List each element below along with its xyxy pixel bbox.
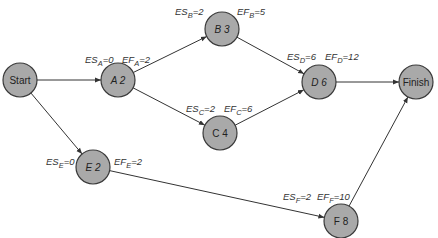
node-f: F 8 [324,204,358,238]
annotation-ef-d: EFD=12 [325,51,359,65]
annotation-prefix: ES [175,6,188,17]
annotation-value: =2 [300,191,312,202]
node-label-e: E 2 [85,162,100,173]
node-d: D 6 [302,65,336,99]
node-label-finish: Finish [403,77,430,88]
annotation-value: =10 [334,191,351,202]
node-finish: Finish [399,65,433,99]
annotation-value: =12 [343,51,360,62]
annotation-value: =5 [254,6,266,17]
annotation-value: =6 [305,51,317,62]
node-a: A 2 [101,63,135,97]
node-label-b: B 3 [214,24,229,35]
annotation-value: =2 [193,6,205,17]
annotation-value: =0 [103,54,115,65]
annotation-value: =2 [139,54,151,65]
annotation-es-e: ESE=0 [46,156,75,170]
node-label-a: A 2 [110,75,126,86]
node-b: B 3 [205,12,239,46]
node-label-d: D 6 [311,77,327,88]
annotation-value: =2 [131,156,143,167]
annotation-es-b: ESB=2 [175,6,204,20]
annotation-es-f: ESF=2 [283,191,312,205]
annotation-value: =0 [64,156,76,167]
node-label-c: C 4 [212,128,228,139]
annotation-es-c: ESC=2 [186,103,216,117]
annotation-prefix: ES [85,54,98,65]
annotation-ef-c: EFC=6 [224,103,253,117]
annotation-ef-e: EFE=2 [114,156,143,170]
edge-start-to-e [31,93,82,154]
annotation-prefix: ES [46,156,59,167]
node-start: Start [3,63,37,97]
nodes-layer: StartA 2B 3C 4D 6FinishE 2F 8 [3,12,433,238]
annotation-prefix: ES [283,191,296,202]
node-label-f: F 8 [334,216,349,227]
node-c: C 4 [203,116,237,150]
annotation-prefix: ES [186,103,199,114]
annotation-ef-f: EFF=10 [317,191,351,205]
edge-f-to-finish [349,97,408,206]
annotation-value: =2 [204,103,216,114]
annotation-es-d: ESD=6 [287,51,317,65]
node-e: E 2 [76,150,110,184]
annotation-ef-b: EFB=5 [237,6,266,20]
node-label-start: Start [9,75,30,86]
annotation-prefix: ES [287,51,300,62]
annotation-value: =6 [242,103,254,114]
cpm-network-diagram: StartA 2B 3C 4D 6FinishE 2F 8 ESA=0EFA=2… [0,0,438,238]
